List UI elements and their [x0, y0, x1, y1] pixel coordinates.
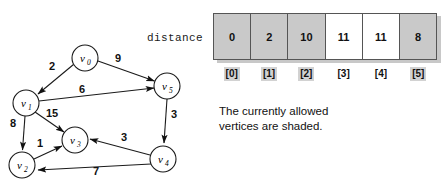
array-index-label-4: [4] [373, 67, 389, 81]
edge-weight-v1-v3: 15 [46, 107, 58, 119]
edge-weight-v2-v3: 1 [37, 137, 43, 149]
array-index-label-1: [1] [261, 67, 277, 81]
caption-line-2: vertices are shaded. [219, 119, 419, 134]
edge-weight-v4-v2: 7 [93, 165, 99, 177]
node-v3 [62, 127, 88, 153]
graph-edges [23, 61, 168, 170]
edge-weight-v5-v4: 3 [171, 108, 177, 120]
edge-weight-v1-v2: 8 [10, 117, 16, 129]
distance-array-label: distance [147, 32, 203, 44]
distance-array-panel: distance 0 2 10 11 11 8 [0] [1] [2] [3] … [213, 0, 443, 193]
edge-weight-v0-v5: 9 [115, 52, 121, 64]
graph-svg: v 0 v 1 v 2 v 3 v 4 v 5 2 9 6 15 8 1 [0, 0, 210, 193]
edge-v5-v4 [164, 99, 167, 143]
edge-weight-v0-v1: 2 [49, 60, 55, 72]
node-label-v2: v [17, 159, 22, 171]
array-index-label-3: [3] [336, 67, 352, 81]
edge-weight-v1-v5: 6 [79, 83, 85, 95]
node-v5 [154, 73, 180, 99]
node-label-v0: v [80, 52, 85, 64]
array-cell-3[interactable]: 11 [326, 14, 363, 59]
node-label-v1: v [21, 97, 26, 109]
array-cell-1[interactable]: 2 [251, 14, 288, 59]
array-index-label-0: [0] [224, 67, 240, 81]
array-index-2: [2] [288, 66, 325, 82]
node-v2 [9, 152, 35, 178]
node-sub-v5: 5 [169, 86, 173, 95]
array-cell-4[interactable]: 11 [363, 14, 400, 59]
array-index-0: [0] [213, 66, 250, 82]
node-sub-v4: 4 [165, 159, 169, 168]
node-label-v3: v [70, 134, 75, 146]
distance-array-table: 0 2 10 11 11 8 [213, 13, 437, 60]
array-index-4: [4] [362, 66, 399, 82]
node-v0 [72, 45, 98, 71]
node-v1 [13, 90, 39, 116]
array-index-3: [3] [325, 66, 362, 82]
node-v4 [150, 146, 176, 172]
array-index-1: [1] [250, 66, 287, 82]
array-index-label-5: [5] [410, 67, 426, 81]
node-label-v4: v [158, 153, 163, 165]
array-index-5: [5] [400, 66, 437, 82]
graph-diagram: v 0 v 1 v 2 v 3 v 4 v 5 2 9 6 15 8 1 [0, 0, 210, 193]
figure-caption: The currently allowed vertices are shade… [219, 104, 419, 134]
array-cell-5[interactable]: 8 [400, 14, 436, 59]
array-index-label-2: [2] [298, 67, 314, 81]
node-sub-v0: 0 [87, 58, 91, 67]
edge-v0-v5 [98, 61, 155, 81]
graph-nodes [9, 45, 180, 178]
figure-root: v 0 v 1 v 2 v 3 v 4 v 5 2 9 6 15 8 1 [0, 0, 443, 193]
edge-v1-v2 [23, 116, 26, 150]
edge-v1-v5 [39, 88, 154, 101]
edge-v0-v1 [38, 65, 74, 95]
array-cell-0[interactable]: 0 [214, 14, 251, 59]
caption-line-1: The currently allowed [219, 104, 419, 119]
node-label-v5: v [162, 80, 167, 92]
node-sub-v3: 3 [76, 140, 81, 149]
node-sub-v1: 1 [28, 103, 32, 112]
array-cell-2[interactable]: 10 [288, 14, 325, 59]
node-sub-v2: 2 [24, 165, 28, 174]
edge-weight-v4-v3: 3 [121, 131, 127, 143]
array-index-row: [0] [1] [2] [3] [4] [5] [213, 66, 437, 82]
